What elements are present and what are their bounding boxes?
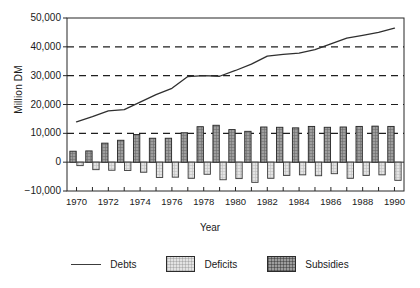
legend-item-debts: Debts xyxy=(71,259,136,270)
line-marker-icon xyxy=(71,264,101,265)
x-tick-label: 1988 xyxy=(347,197,379,207)
y-tick-label: 40,000 xyxy=(9,42,61,52)
x-tick-label: 1978 xyxy=(188,197,220,207)
swatch-marker-icon xyxy=(267,256,296,272)
x-tick-label: 1984 xyxy=(283,197,315,207)
legend-label-debts: Debts xyxy=(110,259,136,270)
x-axis-title: Year xyxy=(0,222,420,233)
x-tick-label: 1974 xyxy=(124,197,156,207)
x-tick-label: 1980 xyxy=(220,197,252,207)
y-tick-label: −10,000 xyxy=(9,186,61,196)
legend-item-deficits: Deficits xyxy=(166,256,237,272)
y-tick-label: 30,000 xyxy=(9,71,61,81)
x-tick-label: 1970 xyxy=(61,197,93,207)
y-tick-label: 20,000 xyxy=(9,100,61,110)
legend-label-deficits: Deficits xyxy=(204,259,237,270)
x-tick-label: 1990 xyxy=(378,197,410,207)
y-tick-label: 10,000 xyxy=(9,128,61,138)
x-tick-label: 1976 xyxy=(156,197,188,207)
y-tick-label: 0 xyxy=(9,157,61,167)
y-tick-label: 50,000 xyxy=(9,13,61,23)
chart-plot-area xyxy=(0,0,420,288)
x-tick-label: 1986 xyxy=(315,197,347,207)
chart-legend: Debts Deficits Subsidies xyxy=(0,256,420,272)
x-tick-label: 1982 xyxy=(251,197,283,207)
x-tick-label: 1972 xyxy=(92,197,124,207)
legend-item-subsidies: Subsidies xyxy=(267,256,348,272)
legend-label-subsidies: Subsidies xyxy=(305,259,348,270)
chart-figure: Million DM −10,000010,00020,00030,00040,… xyxy=(0,0,420,288)
swatch-marker-icon xyxy=(166,256,195,272)
